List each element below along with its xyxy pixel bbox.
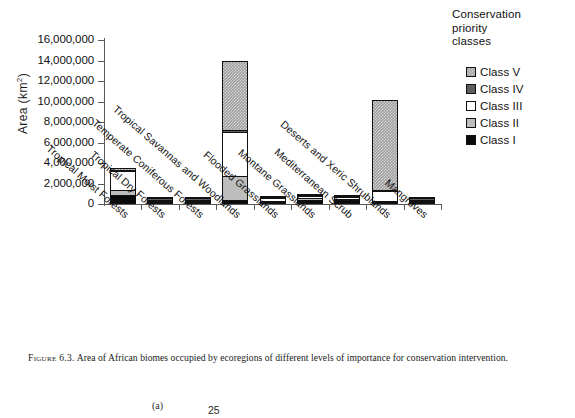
- x-tick-mark: [441, 205, 442, 210]
- legend-label: Class V: [480, 66, 520, 78]
- legend-title-line-2: priority: [452, 22, 548, 36]
- legend-title-line-3: classes: [452, 35, 548, 49]
- legend-title: Conservation priority classes: [452, 8, 548, 49]
- x-tick-mark: [366, 205, 367, 210]
- y-axis-title-superscript: 2: [15, 77, 24, 82]
- y-axis-title-text: Area (km: [16, 82, 30, 134]
- legend-title-line-1: Conservation: [452, 8, 548, 22]
- x-tick-mark: [404, 205, 405, 210]
- legend-label: Class III: [480, 100, 522, 112]
- legend: Conservation priority classes Class VCla…: [452, 8, 570, 149]
- bar-segment-class-v: [372, 100, 398, 190]
- figure-6-3: 16,000,00014,000,00012,000,00010,000,000…: [0, 0, 575, 418]
- x-tick-mark: [329, 205, 330, 210]
- legend-row[interactable]: Class II: [466, 115, 570, 132]
- next-figure-fragment: (a) 25: [0, 398, 575, 418]
- class-iii-swatch: [466, 101, 476, 111]
- figure-caption: Figure 6.3. Area of African biomes occup…: [28, 352, 558, 364]
- class-iv-swatch: [466, 84, 476, 94]
- caption-text: Area of African biomes occupied by ecore…: [77, 352, 508, 363]
- class-i-swatch: [466, 135, 476, 145]
- next-figure-axis-value: 25: [208, 404, 220, 416]
- legend-label: Class II: [480, 117, 519, 129]
- legend-row[interactable]: Class I: [466, 132, 570, 149]
- x-tick-mark: [141, 205, 142, 210]
- y-tick-mark: [98, 204, 104, 205]
- x-tick-mark: [291, 205, 292, 210]
- legend-label: Class IV: [480, 83, 524, 95]
- y-tick-label: 0: [2, 198, 94, 210]
- x-tick-mark: [216, 205, 217, 210]
- class-ii-swatch: [466, 118, 476, 128]
- y-axis-title: Area (km2): [15, 44, 30, 164]
- legend-row[interactable]: Class V: [466, 64, 570, 81]
- bar-segment-class-iv: [222, 130, 248, 132]
- legend-items: Class VClass IVClass IIIClass IIClass I: [466, 64, 570, 149]
- bar-segment-class-v: [222, 61, 248, 131]
- caption-figure-number: Figure 6.3.: [28, 352, 75, 363]
- y-axis-title-suffix: ): [16, 73, 30, 77]
- legend-row[interactable]: Class III: [466, 98, 570, 115]
- x-tick-mark: [254, 205, 255, 210]
- legend-row[interactable]: Class IV: [466, 81, 570, 98]
- x-tick-mark: [179, 205, 180, 210]
- next-figure-panel-label: (a): [152, 400, 163, 411]
- legend-label: Class I: [480, 134, 516, 146]
- class-v-swatch: [466, 67, 476, 77]
